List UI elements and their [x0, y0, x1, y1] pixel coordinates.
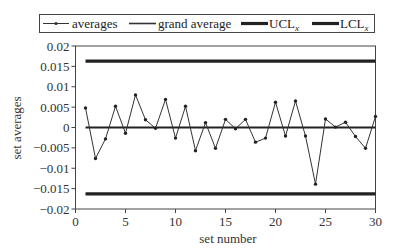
y-axis: 0.020.0150.010.0050−0.005−0.01−0.015−0.0… — [33, 39, 76, 217]
x-tick-label: 0 — [72, 214, 79, 229]
data-point — [364, 147, 367, 150]
data-point — [184, 105, 187, 108]
data-point — [114, 105, 117, 108]
data-point — [124, 132, 127, 135]
x-axis: 051015202530 — [72, 209, 382, 229]
x-tick-label: 10 — [169, 214, 182, 229]
data-point — [214, 147, 217, 150]
x-tick-label: 5 — [122, 214, 129, 229]
y-axis-label: set averages — [9, 96, 24, 159]
x-tick-label: 15 — [219, 214, 232, 229]
data-point — [144, 118, 147, 121]
legend-label-grand-average: grand average — [158, 16, 231, 31]
averages-series — [84, 93, 377, 186]
data-point — [354, 135, 357, 138]
data-point — [274, 101, 277, 104]
x-tick-label: 25 — [319, 214, 332, 229]
data-point — [104, 137, 107, 140]
data-point — [334, 125, 337, 128]
y-tick-label: 0.02 — [47, 39, 70, 54]
x-axis-label: set number — [199, 231, 257, 246]
data-point — [304, 134, 307, 137]
data-point — [234, 127, 237, 130]
data-point — [174, 136, 177, 139]
y-tick-label: 0.005 — [40, 100, 69, 115]
data-point — [374, 115, 377, 118]
data-point — [204, 121, 207, 124]
data-point — [194, 149, 197, 152]
y-tick-label: 0 — [63, 120, 70, 135]
legend: averages grand average UCLx LCLx — [40, 15, 375, 34]
y-tick-label: 0.01 — [47, 79, 70, 94]
data-point — [164, 98, 167, 101]
data-point — [224, 118, 227, 121]
data-point — [294, 99, 297, 102]
y-tick-label: −0.005 — [33, 140, 70, 155]
control-chart: averages grand average UCLx LCLx 0.020.0… — [0, 0, 401, 249]
data-point — [284, 134, 287, 137]
reference-lines — [86, 61, 376, 194]
y-tick-label: −0.02 — [39, 202, 69, 217]
legend-label-averages: averages — [72, 16, 117, 31]
data-point — [134, 93, 137, 96]
data-point — [154, 127, 157, 130]
legend-label-ucl: UCLx — [269, 16, 299, 33]
x-tick-label: 30 — [369, 214, 382, 229]
legend-label-lcl: LCLx — [340, 16, 369, 33]
data-point — [344, 121, 347, 124]
averages-line — [86, 95, 376, 184]
data-point — [264, 136, 267, 139]
data-point — [84, 106, 87, 109]
data-point — [254, 140, 257, 143]
y-tick-label: −0.015 — [33, 181, 70, 196]
y-tick-label: −0.01 — [39, 161, 69, 176]
data-point — [324, 117, 327, 120]
dot-marker-icon — [54, 22, 57, 25]
data-point — [314, 182, 317, 185]
y-tick-label: 0.015 — [40, 59, 69, 74]
x-tick-label: 20 — [269, 214, 282, 229]
data-point — [244, 118, 247, 121]
data-point — [94, 157, 97, 160]
